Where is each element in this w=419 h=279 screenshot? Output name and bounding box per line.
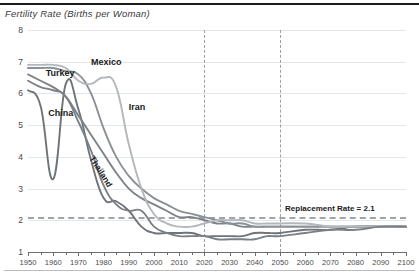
y-axis-tick-label: 7 <box>5 57 23 67</box>
x-axis-minor-tick <box>318 252 319 255</box>
series-label-iran: Iran <box>129 102 146 112</box>
x-axis-tick-label: 2090 <box>372 258 389 267</box>
x-axis-minor-tick <box>116 252 117 255</box>
x-axis-tick-label: 2030 <box>221 258 238 267</box>
x-axis-minor-tick <box>368 252 369 255</box>
x-axis-tick <box>179 252 180 256</box>
x-axis-tick-label: 2050 <box>272 258 289 267</box>
x-axis-tick <box>154 252 155 256</box>
x-axis-tick-label: 1960 <box>45 258 62 267</box>
y-axis-tick-label: 6 <box>5 88 23 98</box>
x-axis-tick <box>230 252 231 256</box>
bottom-divider <box>4 270 415 271</box>
x-axis-tick <box>406 252 407 256</box>
x-axis-tick-label: 1980 <box>95 258 112 267</box>
x-axis-tick-label: 1990 <box>120 258 137 267</box>
x-axis-minor-tick <box>293 252 294 255</box>
x-axis-tick-label: 2070 <box>322 258 339 267</box>
x-axis-minor-tick <box>217 252 218 255</box>
x-axis-tick-label: 2040 <box>246 258 263 267</box>
series-line-iran <box>28 65 406 228</box>
x-axis-tick <box>129 252 130 256</box>
series-label-turkey: Turkey <box>46 68 75 78</box>
y-axis-tick-label: 1 <box>5 247 23 257</box>
x-axis-tick <box>28 252 29 256</box>
top-divider <box>0 3 419 5</box>
x-axis-tick-label: 2080 <box>347 258 364 267</box>
x-axis-tick-label: 1950 <box>20 258 37 267</box>
x-axis-tick <box>255 252 256 256</box>
x-axis-minor-tick <box>242 252 243 255</box>
series-lines <box>28 30 406 252</box>
y-axis-tick-label: 2 <box>5 215 23 225</box>
x-axis-tick-label: 2020 <box>196 258 213 267</box>
y-axis-tick-label: 5 <box>5 120 23 130</box>
x-axis-tick <box>356 252 357 256</box>
chart-title: Fertility Rate (Births per Woman) <box>5 8 150 19</box>
x-axis-tick <box>53 252 54 256</box>
x-axis-minor-tick <box>167 252 168 255</box>
plot-area: 12345678 1950196019701980199020002010202… <box>28 30 406 252</box>
x-axis-minor-tick <box>66 252 67 255</box>
x-axis-minor-tick <box>41 252 42 255</box>
x-axis-tick <box>305 252 306 256</box>
y-axis-tick-label: 3 <box>5 184 23 194</box>
x-axis-tick <box>330 252 331 256</box>
x-axis-tick <box>104 252 105 256</box>
x-axis-minor-tick <box>141 252 142 255</box>
x-axis-minor-tick <box>192 252 193 255</box>
x-axis-tick-label: 2010 <box>171 258 188 267</box>
x-axis-tick-label: 2100 <box>398 258 415 267</box>
x-axis-minor-tick <box>91 252 92 255</box>
series-label-china: China <box>48 108 73 118</box>
x-axis-minor-tick <box>267 252 268 255</box>
x-axis-tick <box>381 252 382 256</box>
x-axis-tick-label: 2060 <box>297 258 314 267</box>
x-axis-tick-label: 2000 <box>146 258 163 267</box>
x-axis-minor-tick <box>393 252 394 255</box>
chart-container: Fertility Rate (Births per Woman) 123456… <box>0 0 419 279</box>
y-axis-tick-label: 8 <box>5 25 23 35</box>
series-line-thailand <box>28 81 406 240</box>
replacement-rate-annotation: Replacement Rate = 2.1 <box>285 204 375 213</box>
x-axis-tick <box>204 252 205 256</box>
series-line-mexico <box>28 68 406 227</box>
y-axis-tick-label: 4 <box>5 152 23 162</box>
x-axis-tick <box>280 252 281 256</box>
x-axis-tick <box>78 252 79 256</box>
x-axis-tick-label: 1970 <box>70 258 87 267</box>
series-label-mexico: Mexico <box>91 57 122 67</box>
x-axis-minor-tick <box>343 252 344 255</box>
